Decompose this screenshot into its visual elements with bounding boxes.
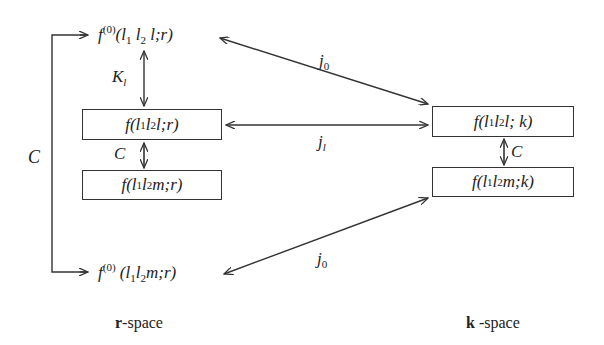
j-sub: 0 <box>322 258 328 270</box>
box-f-m-r: f(l1l2m;r) <box>82 170 222 200</box>
label-c-r: C <box>114 145 125 162</box>
text: f(l <box>121 175 136 195</box>
text: f(l <box>125 115 140 135</box>
sub-1: 1 <box>126 34 132 46</box>
label-j0-bottom: j0 <box>317 250 327 270</box>
box-f-l-r: f(l1l2l;r) <box>82 109 222 140</box>
j-sub: 0 <box>324 60 330 72</box>
space-text: -space <box>122 314 163 331</box>
tail: l; k) <box>505 112 533 132</box>
space-text: -space <box>475 314 520 331</box>
k-main: K <box>112 67 123 86</box>
tail: l;r) <box>156 115 179 135</box>
label-r-space: r-space <box>115 314 163 332</box>
node-f0-m-r: f(0) (l1l2m;r) <box>98 262 176 284</box>
j-sub: l <box>323 141 326 153</box>
label-j1: jl <box>318 133 326 153</box>
superscript-0: (0) <box>103 23 116 35</box>
tail: m;k) <box>503 172 534 192</box>
label-k-l: Kl <box>112 68 126 88</box>
left-bracket-c-arrow <box>52 35 88 272</box>
box-f-l-k: f(l1l2l; k) <box>432 106 574 137</box>
label-c-left: C <box>28 148 40 166</box>
box-f-m-k: f(l1l2m;k) <box>432 167 574 197</box>
label-k-space: k -space <box>466 314 520 332</box>
tail: l;r) <box>146 25 173 44</box>
k-bold: k <box>466 314 475 331</box>
tail: m;r) <box>152 175 182 195</box>
label-c-k: C <box>511 143 522 160</box>
k-sub: l <box>123 76 126 88</box>
text: f(l <box>472 172 487 192</box>
superscript-0: (0) <box>103 261 116 273</box>
node-f0-l-r: f(0)(l1 l2 l;r) <box>98 24 173 46</box>
tail: m;r) <box>146 263 176 282</box>
label-j0-top: j0 <box>319 52 329 72</box>
text: f(l <box>474 112 489 132</box>
